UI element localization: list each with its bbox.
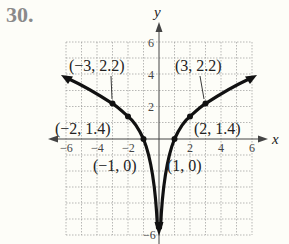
curve-arrow-down-icon	[155, 222, 164, 236]
y-axis-arrow-up-icon	[156, 22, 163, 32]
tick-x-2: 2	[187, 141, 193, 155]
tick-x-6: 6	[249, 141, 255, 155]
x-axis-arrow-right-icon	[258, 136, 268, 143]
graph: x y −6 −4 −2 2 4 6 6 4 2 −6 (−3, 2.2) (3…	[0, 0, 289, 244]
pointer-3	[200, 76, 204, 99]
point-neg3	[110, 101, 116, 107]
annotation-neg2: (−2, 1.4)	[55, 120, 111, 138]
tick-y-neg6: −6	[143, 228, 156, 242]
y-axis-label: y	[152, 4, 161, 20]
tick-x-neg2: −2	[122, 141, 135, 155]
tick-y-4: 4	[148, 68, 154, 82]
point-2	[187, 114, 193, 120]
x-axis-label: x	[271, 131, 279, 147]
tick-x-neg4: −4	[91, 141, 104, 155]
annotation-1: (1, 0)	[167, 157, 202, 175]
point-neg1	[141, 136, 147, 142]
annotation-3: (3, 2.2)	[175, 57, 222, 75]
point-1	[172, 136, 178, 142]
tick-y-2: 2	[148, 100, 154, 114]
annotation-neg1: (−1, 0)	[93, 157, 137, 175]
point-3	[203, 101, 209, 107]
tick-y-6: 6	[148, 36, 154, 50]
annotation-2: (2, 1.4)	[194, 120, 241, 138]
pointer-neg3	[111, 76, 112, 99]
point-neg2	[125, 114, 131, 120]
tick-x-4: 4	[218, 141, 224, 155]
annotation-neg3: (−3, 2.2)	[69, 57, 125, 75]
tick-x-neg6: −6	[60, 141, 73, 155]
